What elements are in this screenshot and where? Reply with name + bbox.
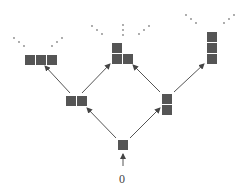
edges [45, 64, 204, 166]
node-L-shape [112, 43, 133, 64]
root-label: 0 [119, 172, 125, 187]
edge-n2b-to-n3b [133, 65, 160, 92]
edge-n1-to-n2b [130, 108, 160, 138]
edge-n2b-to-n3c [174, 64, 204, 92]
edge-n2a-to-n3b [82, 64, 110, 93]
nodes [25, 32, 217, 150]
edge-n2a-to-n3a [45, 66, 70, 93]
node-single [118, 140, 128, 150]
node-column-2 [162, 94, 172, 115]
node-row-3 [25, 55, 57, 65]
young-lattice-diagram [0, 0, 244, 192]
edge-n1-to-n2a [87, 108, 116, 138]
node-column-3 [207, 32, 217, 64]
ellipsis-dots [13, 14, 235, 47]
node-row-2 [66, 96, 87, 106]
